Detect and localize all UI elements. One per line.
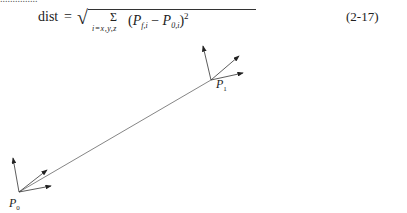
p0-arrow-diag [19,170,47,192]
label-p0: P0 [9,196,20,212]
label-p1: P1 [216,77,227,93]
p1-arrow-up [203,46,211,80]
p0-arrow-up [13,158,19,192]
connecting-line [19,80,211,192]
vector-diagram [0,0,407,213]
